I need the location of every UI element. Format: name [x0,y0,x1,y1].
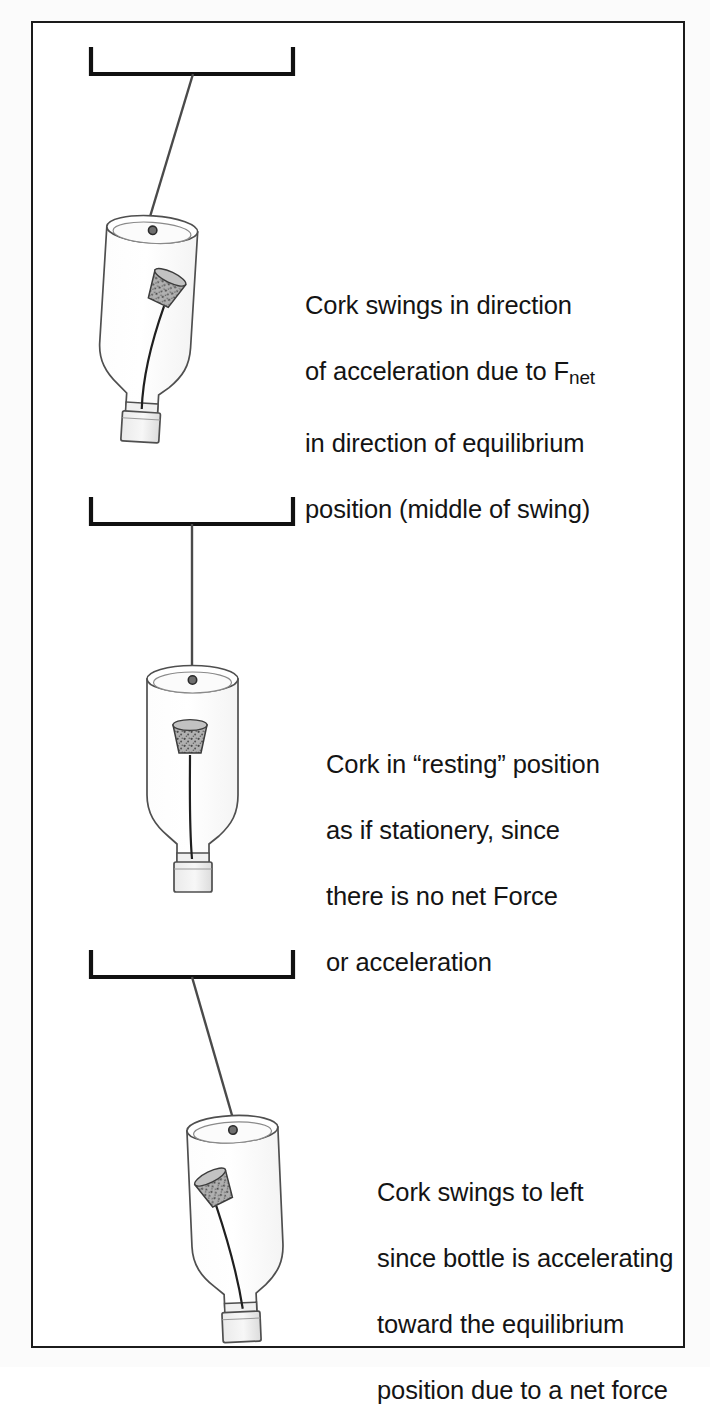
caption-2-line-4: or acceleration [326,946,600,979]
panel-2-caption: Cork in “resting” position as if station… [326,715,600,1012]
caption-2-line-1: Cork in “resting” position [326,748,600,781]
caption-2-line-3: there is no net Force [326,880,600,913]
caption-3-line-3: toward the equilibrium [377,1308,673,1341]
caption-1-line-2-text: of acceleration due to F [305,357,569,385]
string-anchor-3 [229,1126,238,1135]
caption-3-line-2: since bottle is accelerating [377,1242,673,1275]
cork-2 [173,720,207,753]
bottle-cap-2 [174,862,212,892]
caption-2-line-2: as if stationery, since [326,814,600,847]
bottle-body-1 [96,226,198,413]
caption-1-line-2: of acceleration due to Fnet [305,355,595,394]
bottle-body-3 [187,1127,286,1313]
bottle-3 [186,1114,287,1344]
panel-3-illustration [91,950,293,1344]
panel-1-illustration [91,47,293,445]
panel-2-illustration [91,497,293,892]
bottle-body-2 [147,679,238,861]
bottle-2 [147,666,238,893]
bottle-cap-3 [222,1311,261,1343]
panel-1-caption: Cork swings in direction of acceleration… [305,256,595,559]
panel-3-caption: Cork swings to left since bottle is acce… [377,1143,673,1408]
support-bracket-3 [91,950,293,977]
bottle-1 [94,213,199,445]
support-bracket-2 [91,497,293,524]
caption-3-line-4: position due to a net force [377,1374,673,1407]
bottle-cap-1 [121,411,161,443]
string-anchor-2 [188,676,196,684]
figure-frame: Cork swings in direction of acceleration… [31,21,685,1348]
suspension-string-1 [146,74,193,230]
caption-1-fnet-subscript: net [569,367,595,388]
caption-1-line-4: position (middle of swing) [305,493,595,526]
string-anchor-1 [148,226,157,235]
support-bracket-1 [91,47,293,74]
suspension-string-3 [192,977,236,1129]
caption-1-line-3: in direction of equilibrium [305,427,595,460]
caption-1-line-1: Cork swings in direction [305,289,595,322]
caption-3-line-1: Cork swings to left [377,1176,673,1209]
